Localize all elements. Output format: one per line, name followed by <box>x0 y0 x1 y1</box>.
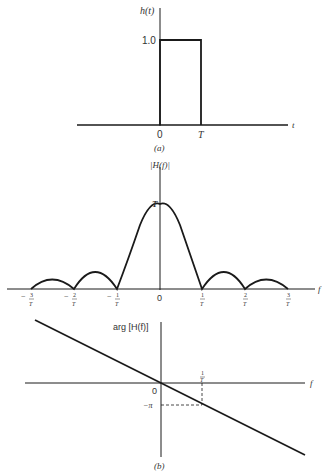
phase-xlabel: f <box>310 378 314 388</box>
phase-origin: 0 <box>152 386 157 396</box>
mag-xtick-neg2: − 2 T <box>64 292 77 307</box>
a-xtick-T: T <box>198 129 205 140</box>
mag-xtick-neg3: − 3 T <box>21 292 34 307</box>
svg-text:−: − <box>21 292 26 301</box>
svg-text:T: T <box>286 301 290 307</box>
figure: h(t) 1.0 0 T t (a) |H(f)| T 0 f − 3 T − … <box>0 0 326 476</box>
a-xlabel: t <box>292 120 295 130</box>
panel-b-magnitude: |H(f)| T 0 f − 3 T − 2 T − 1 T 1 T 2 <box>7 160 322 307</box>
phase-line <box>35 320 305 455</box>
svg-text:T: T <box>29 301 33 307</box>
phase-xtick-den: T <box>200 377 204 383</box>
a-pulse <box>160 40 201 125</box>
svg-text:−: − <box>64 292 69 301</box>
a-caption: (a) <box>154 143 165 153</box>
phase-ylabel: arg [H(f)] <box>113 322 149 332</box>
svg-text:−: − <box>107 292 112 301</box>
svg-text:1: 1 <box>116 292 119 298</box>
phase-ytick: −π <box>143 401 153 410</box>
panel-b-phase: arg [H(f)] 0 −π 1 T f (b) <box>25 320 314 471</box>
mag-xlabel: f <box>318 284 322 294</box>
mag-xtick-pos3: 3 T <box>286 292 291 307</box>
mag-origin: 0 <box>157 293 162 303</box>
panel-a-rect-pulse: h(t) 1.0 0 T t (a) <box>77 5 295 153</box>
svg-text:T: T <box>72 301 76 307</box>
mag-peak: T <box>152 199 158 209</box>
mag-ylabel: |H(f)| <box>150 160 170 170</box>
svg-text:2: 2 <box>244 292 247 298</box>
a-ylabel: h(t) <box>140 5 155 17</box>
svg-text:3: 3 <box>287 292 290 298</box>
svg-text:T: T <box>115 301 119 307</box>
svg-text:3: 3 <box>30 292 33 298</box>
a-xtick-0: 0 <box>157 129 163 140</box>
mag-xtick-pos1: 1 T <box>200 292 205 307</box>
phase-xtick-num: 1 <box>201 370 204 376</box>
mag-xtick-pos2: 2 T <box>243 292 248 307</box>
b-caption: (b) <box>154 461 165 471</box>
mag-xtick-neg1: − 1 T <box>107 292 120 307</box>
svg-text:2: 2 <box>73 292 76 298</box>
svg-text:T: T <box>200 301 204 307</box>
a-ytick: 1.0 <box>142 35 156 46</box>
svg-text:1: 1 <box>201 292 204 298</box>
svg-text:T: T <box>243 301 247 307</box>
